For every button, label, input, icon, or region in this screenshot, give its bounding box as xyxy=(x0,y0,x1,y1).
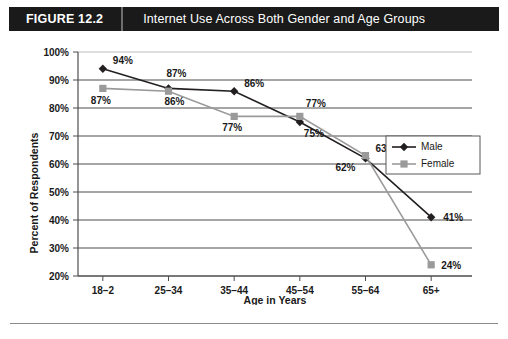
data-label-male: 62% xyxy=(336,162,356,173)
data-point-female xyxy=(165,88,172,95)
footer-divider xyxy=(10,323,498,324)
data-label-female: 77% xyxy=(222,122,242,133)
chart-legend: MaleFemale xyxy=(386,136,480,174)
data-label-male: 94% xyxy=(113,55,133,66)
figure-header-bar: FIGURE 12.2 Internet Use Across Both Gen… xyxy=(9,7,499,31)
line-chart: Percent of Respondents 100%90%80%70%60%5… xyxy=(0,33,508,305)
chart-container: Percent of Respondents 100%90%80%70%60%5… xyxy=(0,33,508,305)
data-label-male: 41% xyxy=(443,212,463,223)
legend-label-male: Male xyxy=(421,141,443,152)
y-tick-label: 40% xyxy=(49,215,69,226)
figure-title-label: Internet Use Across Both Gender and Age … xyxy=(123,12,425,26)
x-tick-label: 55–64 xyxy=(352,285,380,296)
y-tick-label: 50% xyxy=(49,187,69,198)
y-tick-label: 20% xyxy=(49,271,69,282)
series-line-female xyxy=(103,88,431,264)
y-tick-label: 90% xyxy=(49,75,69,86)
data-label-male: 87% xyxy=(167,68,187,79)
x-tick-label: 65+ xyxy=(423,285,440,296)
data-point-female xyxy=(99,85,106,92)
data-point-female xyxy=(362,152,369,159)
data-label-female: 86% xyxy=(165,96,185,107)
y-tick-label: 60% xyxy=(49,159,69,170)
data-point-male xyxy=(99,65,107,73)
data-point-female xyxy=(296,113,303,120)
data-label-female: 87% xyxy=(91,95,111,106)
y-tick-label: 30% xyxy=(49,243,69,254)
y-tick-label: 80% xyxy=(49,103,69,114)
x-axis: 18–225–3435–4445–5455–6465+ xyxy=(92,276,440,296)
data-label-female: 77% xyxy=(306,98,326,109)
legend-label-female: Female xyxy=(421,158,455,169)
data-label-female: 24% xyxy=(441,260,461,271)
data-label-male: 86% xyxy=(244,78,264,89)
y-tick-label: 100% xyxy=(43,47,69,58)
data-point-female xyxy=(231,113,238,120)
data-point-female xyxy=(428,261,435,268)
x-tick-label: 25–34 xyxy=(155,285,183,296)
legend-marker-female xyxy=(400,160,407,167)
figure-number-label: FIGURE 12.2 xyxy=(9,12,103,26)
y-tick-label: 70% xyxy=(49,131,69,142)
data-point-male xyxy=(230,87,238,95)
x-tick-label: 18–2 xyxy=(92,285,115,296)
y-axis-title: Percent of Respondents xyxy=(28,132,40,253)
x-axis-title: Age in Years xyxy=(244,294,307,305)
